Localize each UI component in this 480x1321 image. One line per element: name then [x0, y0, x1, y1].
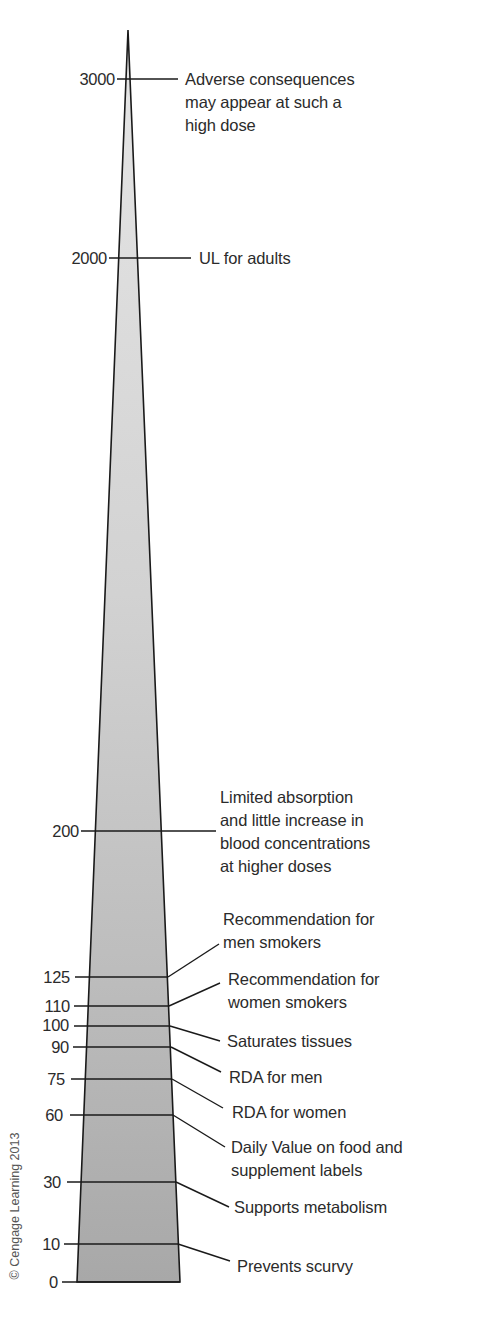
annotation-110: Recommendation for women smokers [228, 968, 379, 1014]
tick-label-110: 110 [10, 997, 70, 1015]
tick-label-3000: 3000 [55, 70, 115, 88]
annotation-3000: Adverse consequences may appear at such … [185, 68, 355, 137]
copyright-credit: © Cengage Learning 2013 [8, 1126, 22, 1286]
annotation-100: Saturates tissues [227, 1030, 352, 1053]
leader-100 [170, 1026, 220, 1041]
tick-label-100: 100 [9, 1016, 69, 1034]
tick-label-200: 200 [19, 822, 79, 840]
annotation-2000: UL for adults [199, 247, 291, 270]
leader-90 [171, 1047, 221, 1072]
tick-label-2000: 2000 [47, 249, 107, 267]
annotation-90: RDA for men [229, 1066, 322, 1089]
vitamin-c-dose-diagram: 3000 2000 200 125 110 100 90 75 60 30 10… [0, 0, 480, 1321]
dose-cone [77, 30, 180, 1282]
annotation-10: Prevents scurvy [237, 1255, 353, 1278]
leader-30 [176, 1182, 229, 1207]
leader-10 [178, 1244, 230, 1261]
annotation-30: Supports metabolism [234, 1196, 387, 1219]
leader-110 [169, 983, 220, 1006]
annotation-200: Limited absorption and little increase i… [220, 786, 370, 878]
annotation-125: Recommendation for men smokers [223, 908, 374, 954]
tick-label-75: 75 [5, 1070, 65, 1088]
leader-60 [173, 1115, 225, 1147]
tick-label-125: 125 [10, 968, 70, 986]
annotation-60: Daily Value on food and supplement label… [231, 1136, 403, 1182]
annotation-75: RDA for women [232, 1101, 346, 1124]
tick-label-60: 60 [3, 1106, 63, 1124]
leader-75 [172, 1079, 223, 1108]
tick-label-90: 90 [9, 1038, 69, 1056]
leader-125 [168, 944, 219, 977]
